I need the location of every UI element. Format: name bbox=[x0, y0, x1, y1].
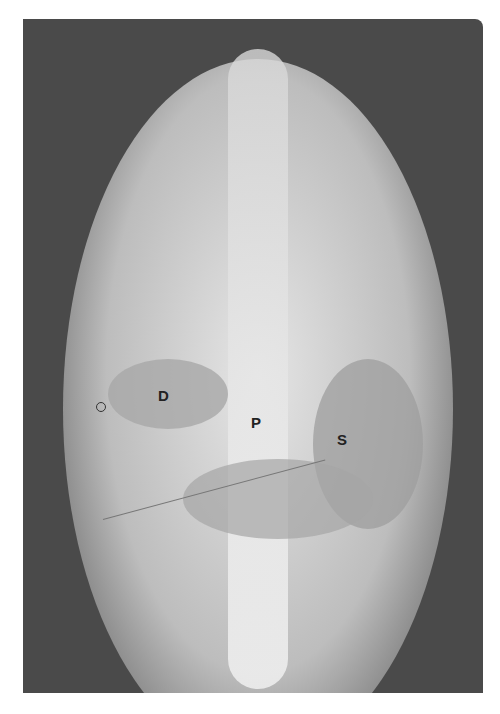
label-s: S bbox=[337, 431, 347, 448]
label-p: P bbox=[251, 414, 261, 431]
radiograph-film: D P S bbox=[23, 19, 483, 693]
label-d: D bbox=[158, 387, 169, 404]
spine bbox=[228, 49, 288, 689]
marker-ring bbox=[96, 402, 106, 412]
